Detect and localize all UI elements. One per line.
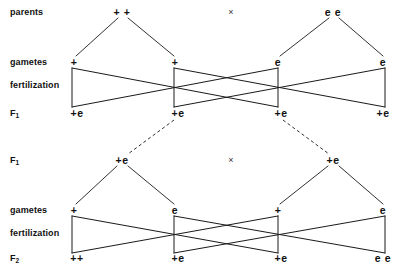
gamete-second-cross-0: + [71,204,78,216]
selection-dashed-line-1 [283,120,329,154]
f2-offspring-genotype-3: e e [375,252,391,264]
f2-offspring-letter: F [10,253,16,263]
gamete-first-cross-3: e [380,56,386,68]
meiosis-line-1 [128,18,174,56]
parents-cross-symbol: × [228,7,233,17]
parent-genotype-1: e e [325,6,341,18]
gamete-first-cross-0: + [71,56,78,68]
f2-offspring-genotype-1: +e [171,252,184,264]
f1-parents-subscript: 1 [16,159,20,166]
gamete-second-cross-3: e [380,204,386,216]
fertilization-lines-block-2 [72,216,385,253]
gamete-first-cross-2: e [275,56,281,68]
f2-offspring-subscript: 2 [16,257,20,264]
f2-offspring-genotype-2: +e [274,252,287,264]
row-label-f2-offspring: F2 [10,253,19,263]
f1-parents-letter: F [10,155,16,165]
row-label-f1-parents: F1 [10,155,19,165]
meiosis-line-5 [128,166,174,204]
gamete-second-cross-2: + [275,204,282,216]
meiosis-line-4 [76,166,117,204]
meiosis-line-2 [280,18,329,56]
f1-offspring-subscript: 1 [16,112,20,119]
meiosis-line-6 [280,166,328,204]
f1-offspring-genotype-0: +e [70,107,83,119]
f1-cross-symbol: × [228,155,233,165]
f2-offspring-genotype-0: ++ [70,252,83,264]
selection-dashed-lines [128,120,329,154]
selection-dashed-line-0 [128,120,174,154]
row-label-parents: parents [10,7,43,17]
row-label-f1-offspring: F1 [10,108,19,118]
f1-offspring-genotype-3: +e [376,107,389,119]
meiosis-line-0 [76,18,118,56]
f1-offspring-letter: F [10,108,16,118]
meiosis-line-7 [339,166,383,204]
f1-offspring-genotype-1: +e [171,107,184,119]
f1-offspring-genotype-2: +e [274,107,287,119]
meiosis-line-3 [339,18,383,56]
genetics-cross-diagram: parents gametes fertilization F1 F1 game… [0,0,398,273]
gamete-first-cross-1: + [172,56,179,68]
f1-parent-genotype-0: +e [115,154,128,166]
diagram-canvas [0,0,398,273]
row-label-gametes-second-cross: gametes [10,205,47,215]
row-label-fertilization-first-cross: fertilization [10,80,59,90]
fertilization-lines-block-1 [72,68,385,107]
f1-parent-genotype-1: +e [326,154,339,166]
gamete-second-cross-1: e [172,204,178,216]
row-label-fertilization-second-cross: fertilization [10,228,59,238]
meiosis-lines-group [76,18,383,204]
row-label-gametes-first-cross: gametes [10,57,47,67]
parent-genotype-0: + + [114,6,131,18]
